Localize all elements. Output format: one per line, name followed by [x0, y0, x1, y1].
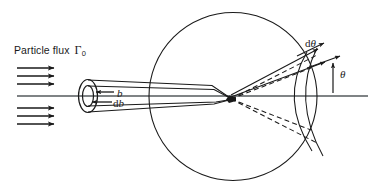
impact-parameter-leaders	[92, 92, 114, 102]
dtheta-theta: θ	[311, 37, 316, 49]
particle-flux-label: Particle fluxΓ0	[14, 44, 86, 58]
gamma-symbol: Γ	[70, 43, 82, 57]
scattered-cone-rays	[231, 55, 317, 143]
scattering-angle-label: θ	[340, 69, 345, 80]
cone-ray-upper-inner	[231, 68, 311, 99]
db-b: b	[119, 97, 125, 109]
particle-flux-text: Particle flux	[14, 44, 70, 56]
scattering-angle-differential-label: dθ	[305, 38, 316, 49]
scattered-rays-solid	[231, 49, 325, 97]
scattered-ray-middle	[231, 62, 325, 97]
gamma-subscript: 0	[82, 49, 86, 58]
tube-wall-lower-inner	[88, 100, 231, 107]
scattering-diagram	[0, 0, 373, 192]
impact-parameter-differential-label: db	[113, 98, 124, 109]
